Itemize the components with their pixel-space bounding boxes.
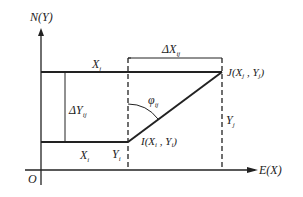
coordinate-diagram: N(Y) E(X) O Xj Xi ΔXij ΔYij φij J(Xj , Y… [0, 0, 303, 197]
delta-x-label: ΔXij [161, 42, 180, 58]
xi-label: Xi [79, 148, 89, 164]
x-axis-label: E(X) [258, 163, 282, 177]
point-i-label: I(Xi , Yi) [140, 135, 177, 149]
xj-label: Xj [91, 57, 101, 73]
angle-label: φij [148, 93, 159, 109]
y-axis-label: N(Y) [29, 10, 53, 24]
yj-label: Yj [226, 113, 235, 129]
delta-y-label: ΔYij [68, 103, 87, 119]
y-axis-arrow-icon [38, 28, 44, 36]
origin-label: O [28, 172, 37, 186]
yi-label: Yi [112, 147, 121, 163]
point-j-label: J(Xj , Yj) [227, 66, 265, 80]
x-axis-arrow-icon [247, 167, 258, 173]
